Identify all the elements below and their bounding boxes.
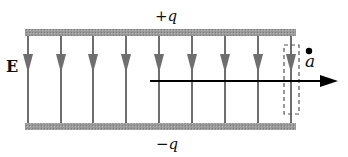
top-plate — [25, 29, 296, 36]
field-line — [88, 36, 98, 123]
diagram-canvas: a +q −q E — [0, 0, 348, 157]
field-line — [253, 36, 263, 123]
bottom-plate-label: −q — [156, 135, 178, 153]
field-line — [187, 36, 197, 123]
field-line — [286, 36, 296, 123]
field-label-E: E — [6, 57, 18, 76]
field-line — [154, 36, 164, 123]
point-a-label: a — [305, 51, 315, 71]
top-plate-label: +q — [155, 7, 177, 25]
field-line — [23, 36, 33, 123]
field-lines — [23, 36, 296, 123]
field-line — [121, 36, 131, 123]
path-arrow — [150, 75, 338, 87]
field-line — [56, 36, 66, 123]
field-line — [220, 36, 230, 123]
bottom-plate — [25, 123, 296, 130]
